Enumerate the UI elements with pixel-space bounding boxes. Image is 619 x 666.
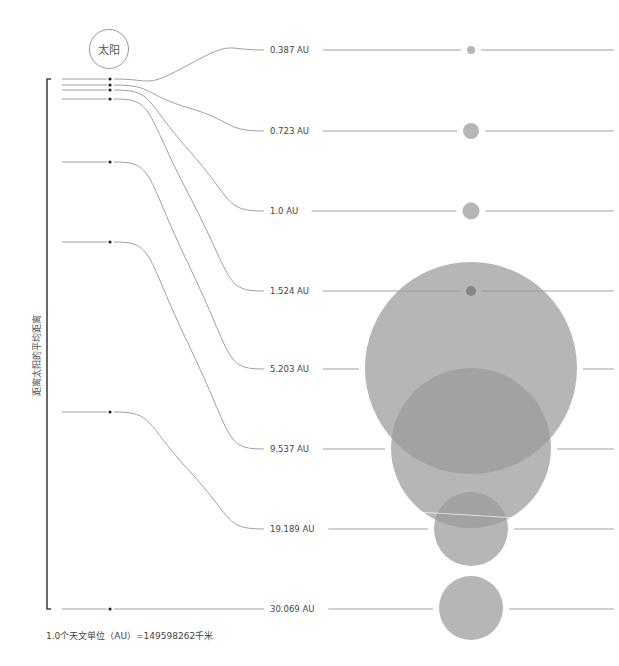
orbit-dot — [108, 97, 111, 100]
distance-bracket — [47, 79, 51, 609]
planet-circle — [463, 123, 479, 139]
distance-label: 1.0 AU — [266, 206, 302, 216]
planet-circle — [439, 576, 503, 640]
planet-circle — [463, 203, 480, 220]
orbit-dots — [108, 77, 111, 610]
distance-label: 30.069 AU — [266, 604, 318, 614]
orbit-dot — [108, 88, 111, 91]
distance-label: 5.203 AU — [266, 364, 313, 374]
sun-label: 太阳 — [98, 41, 120, 57]
distance-label: 1.524 AU — [266, 286, 313, 296]
orbit-dot — [108, 77, 111, 80]
au-footnote: 1.0个天文单位（AU）=149598262千米 — [46, 629, 213, 642]
orbit-dot — [108, 240, 111, 243]
diagram-canvas — [0, 0, 619, 666]
planet-circle — [434, 492, 508, 566]
distance-label: 19.189 AU — [266, 524, 318, 534]
orbit-dot — [108, 83, 111, 86]
orbit-dot — [108, 607, 111, 610]
axis-label: 距离太阳的平均距离 — [30, 315, 43, 396]
bracket-line — [47, 79, 51, 609]
planet-circle — [466, 286, 476, 296]
orbit-dot — [108, 160, 111, 163]
distance-label: 9.537 AU — [266, 444, 313, 454]
distance-label: 0.387 AU — [266, 45, 313, 55]
distance-label: 0.723 AU — [266, 126, 313, 136]
sun-circle: 太阳 — [89, 29, 129, 69]
planet-circles — [365, 46, 577, 640]
planet-circle — [467, 46, 475, 54]
orbit-dot — [108, 410, 111, 413]
